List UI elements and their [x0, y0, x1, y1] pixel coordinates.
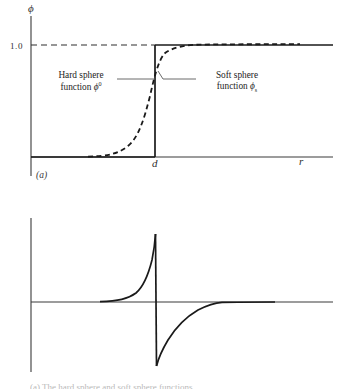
panel-b: ϕs−ϕ0 r d (b): [0, 200, 347, 389]
figure-hard-soft-sphere-functions: ϕ 1.0 r d Hard sphere function ϕ0 Soft s…: [0, 0, 347, 389]
annotation-hard-sphere-superscript: 0: [99, 81, 102, 87]
panel-a-x-axis-label: r: [299, 155, 303, 168]
annotation-soft-sphere: Soft sphere function ϕs: [196, 70, 278, 95]
panel-a-y-tick-1.0: 1.0: [10, 41, 23, 52]
panel-a-plot: [0, 0, 347, 200]
annotation-hard-sphere-line2: function: [60, 82, 93, 92]
figure-caption-text: (a) The hard sphere and soft sphere func…: [30, 383, 290, 389]
panel-b-plot-inner: [0, 200, 347, 389]
curve-difference-positive: [100, 234, 156, 302]
annotation-soft-sphere-subscript: s: [255, 87, 257, 93]
figure-caption-clipped: (a) The hard sphere and soft sphere func…: [30, 383, 290, 389]
panel-a: ϕ 1.0 r d Hard sphere function ϕ0 Soft s…: [0, 0, 347, 200]
curve-difference-negative: [157, 302, 276, 366]
annotation-hard-sphere-line1: Hard sphere: [58, 70, 103, 80]
annotation-hard-sphere: Hard sphere function ϕ0: [44, 70, 118, 94]
annotation-soft-sphere-line2: function: [217, 81, 250, 91]
curve-difference-discontinuity: [156, 234, 157, 366]
panel-a-x-tick-d: d: [152, 157, 158, 170]
panel-a-y-axis-label: ϕ: [28, 2, 34, 15]
annotation-soft-sphere-line1: Soft sphere: [216, 70, 258, 80]
leader-soft-sphere: [158, 71, 196, 79]
panel-a-label: (a): [36, 170, 47, 182]
curve-soft-sphere: [88, 44, 300, 156]
